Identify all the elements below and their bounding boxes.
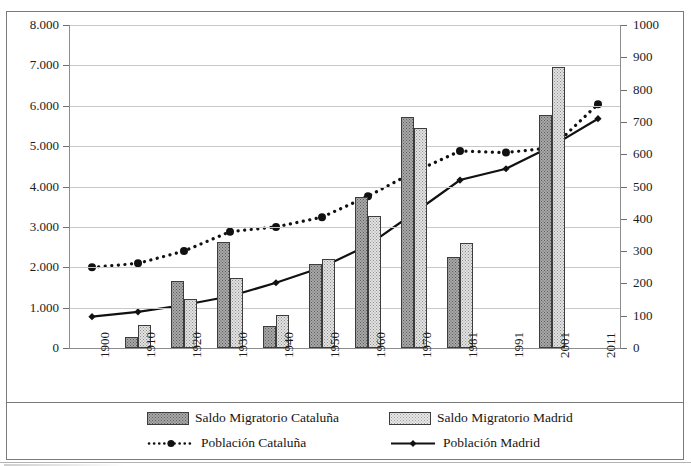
- y-axis-right-tick: [621, 348, 627, 349]
- y-axis-right-label: 0: [633, 342, 685, 354]
- legend-swatch-madrid-icon: [389, 412, 431, 425]
- bar-cataluna-1920: [171, 281, 184, 348]
- legend-swatch-cataluna-icon: [147, 412, 189, 425]
- plot-area: 8.0007.0006.0005.0004.0003.0002.0001.000…: [69, 25, 621, 348]
- y-axis-right-tick: [621, 57, 627, 58]
- y-axis-right-line: [620, 25, 621, 348]
- x-axis-label-1950: 1950: [327, 332, 343, 358]
- legend-item[interactable]: Población Cataluña: [147, 432, 306, 454]
- x-axis-label-1991: 1991: [511, 332, 527, 358]
- y-axis-left-label: 6.000: [5, 100, 59, 112]
- y-axis-left-label: 5.000: [5, 140, 59, 152]
- bar-cataluna-1910: [125, 337, 138, 348]
- y-axis-right-tick: [621, 251, 627, 252]
- bottom-divider: [0, 462, 691, 463]
- gridline: [69, 65, 621, 66]
- line-marker: [456, 147, 464, 155]
- legend-item-label: Saldo Migratorio Madrid: [437, 410, 573, 426]
- legend-item-label: Saldo Migratorio Cataluña: [195, 410, 339, 426]
- y-axis-left-label: 7.000: [5, 59, 59, 71]
- y-axis-right-label: 600: [633, 148, 685, 160]
- y-axis-left-label: 4.000: [5, 181, 59, 193]
- y-axis-left-line: [69, 25, 70, 348]
- chart-legend: Saldo Migratorio CataluñaSaldo Migratori…: [6, 403, 684, 460]
- chart-frame: 8.0007.0006.0005.0004.0003.0002.0001.000…: [6, 11, 684, 403]
- y-axis-left-label: 1.000: [5, 302, 59, 314]
- y-axis-right-tick: [621, 154, 627, 155]
- line-marker: [272, 279, 279, 286]
- y-axis-right-tick: [621, 187, 627, 188]
- y-axis-right-label: 1000: [633, 19, 685, 31]
- y-axis-right-tick: [621, 283, 627, 284]
- y-axis-right-label: 400: [633, 213, 685, 225]
- legend-line-madrid-icon: [389, 437, 437, 450]
- x-axis-label-1920: 1920: [189, 332, 205, 358]
- y-axis-right-label: 700: [633, 116, 685, 128]
- bar-cataluna-1930: [217, 242, 230, 348]
- legend-row-lines: Población CataluñaPoblación Madrid: [7, 432, 685, 454]
- legend-line-cataluna-icon: [147, 437, 195, 450]
- line-marker: [180, 247, 188, 255]
- line-marker: [502, 149, 510, 157]
- x-axis-label-1900: 1900: [97, 332, 113, 358]
- y-axis-left-label: 3.000: [5, 221, 59, 233]
- y-axis-right-tick: [621, 219, 627, 220]
- line-marker: [134, 259, 142, 267]
- gridline: [69, 25, 621, 26]
- y-axis-right-label: 800: [633, 84, 685, 96]
- line-marker: [594, 100, 602, 108]
- y-axis-right-label: 500: [633, 181, 685, 193]
- bar-cataluna-1950: [309, 264, 322, 348]
- y-axis-right-tick: [621, 122, 627, 123]
- chart-screenshot: 8.0007.0006.0005.0004.0003.0002.0001.000…: [0, 0, 691, 466]
- y-axis-right-label: 200: [633, 277, 685, 289]
- line-marker: [318, 213, 326, 221]
- bar-cataluna-1960: [355, 197, 368, 348]
- legend-item-label: Población Cataluña: [201, 435, 306, 451]
- y-axis-left-label: 2.000: [5, 261, 59, 273]
- y-axis-right-tick: [621, 316, 627, 317]
- bar-madrid-1960: [368, 216, 381, 348]
- x-axis-label-2011: 2011: [603, 332, 619, 358]
- line-poblacion-madrid: [92, 119, 598, 317]
- x-axis-label-1940: 1940: [281, 332, 297, 358]
- y-axis-right-label: 300: [633, 245, 685, 257]
- x-axis-label-2001: 2001: [557, 332, 573, 358]
- legend-row-bars: Saldo Migratorio CataluñaSaldo Migratori…: [7, 407, 685, 429]
- y-axis-right-tick: [621, 90, 627, 91]
- y-axis-right-label: 100: [633, 310, 685, 322]
- y-axis-left-label: 8.000: [5, 19, 59, 31]
- line-marker: [88, 313, 95, 320]
- line-marker: [226, 228, 234, 236]
- bar-cataluna-1981: [447, 257, 460, 348]
- y-axis-right-tick: [621, 25, 627, 26]
- gridline: [69, 106, 621, 107]
- line-marker: [134, 308, 141, 315]
- chart-title-cropped: [0, 0, 691, 11]
- x-axis-label-1970: 1970: [419, 332, 435, 358]
- bar-madrid-1970: [414, 128, 427, 348]
- legend-item[interactable]: Población Madrid: [389, 432, 540, 454]
- legend-item[interactable]: Saldo Migratorio Madrid: [389, 407, 573, 429]
- x-axis-label-1960: 1960: [373, 332, 389, 358]
- y-axis-left-tick: [63, 348, 69, 349]
- bar-cataluna-1970: [401, 117, 414, 348]
- y-axis-left-label: 0: [5, 342, 59, 354]
- legend-item[interactable]: Saldo Migratorio Cataluña: [147, 407, 339, 429]
- bar-madrid-2001: [552, 67, 565, 348]
- bar-cataluna-1940: [263, 326, 276, 348]
- x-axis-label-1930: 1930: [235, 332, 251, 358]
- line-marker: [502, 165, 509, 172]
- x-axis-label-1981: 1981: [465, 332, 481, 358]
- bar-cataluna-2001: [539, 115, 552, 348]
- y-axis-right-label: 900: [633, 51, 685, 63]
- x-axis-label-1910: 1910: [143, 332, 159, 358]
- legend-item-label: Población Madrid: [443, 435, 540, 451]
